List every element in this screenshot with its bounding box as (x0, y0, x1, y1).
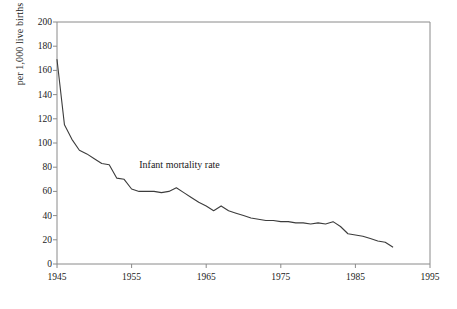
plot-area (0, 0, 457, 309)
x-axis-ticks (57, 264, 430, 268)
y-axis-ticks (53, 22, 57, 264)
axis-frame (57, 22, 430, 264)
series-annotation-label: Infant mortality rate (139, 159, 220, 171)
data-series-infant-mortality-rate (57, 60, 393, 248)
chart-container: per 1,000 live births 020406080100120140… (0, 0, 457, 309)
